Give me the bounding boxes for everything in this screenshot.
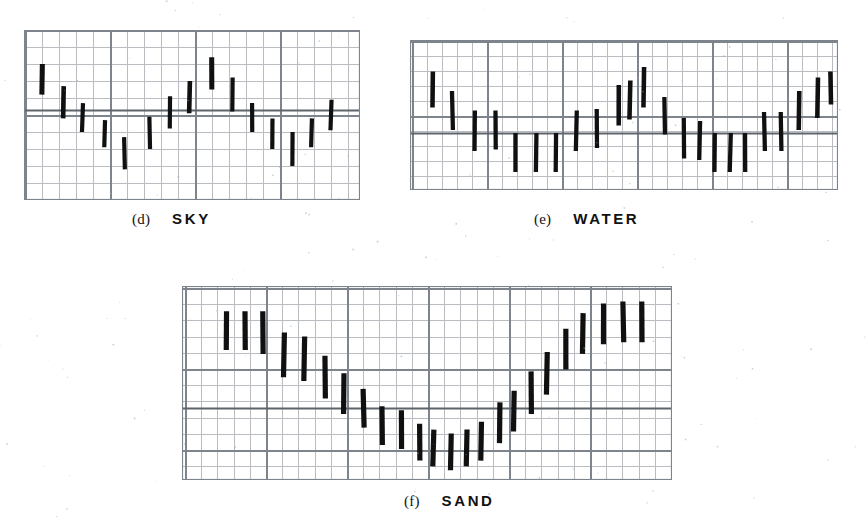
panel-title-sky: SKY (172, 210, 211, 227)
range-bar (330, 100, 331, 131)
range-bar (576, 111, 577, 152)
caption-water: (e)WATER (534, 210, 639, 228)
panel-label-sand: (f) (404, 493, 420, 509)
panel-title-sand: SAND (442, 492, 495, 509)
plot-area-sand (182, 286, 672, 480)
range-bar (830, 72, 831, 105)
range-bar (817, 78, 818, 119)
range-bar (42, 64, 43, 95)
caption-sand: (f)SAND (404, 492, 495, 510)
range-bar (623, 302, 624, 343)
range-bar (629, 81, 630, 120)
range-bar (452, 91, 453, 130)
caption-sky: (d)SKY (132, 210, 211, 228)
range-bar (799, 91, 800, 130)
plot-area-water (410, 40, 838, 190)
range-bar (730, 133, 731, 172)
range-bar (466, 430, 467, 467)
panel-frame (25, 31, 360, 200)
range-bar (582, 313, 583, 354)
panel-sky (24, 30, 360, 200)
range-bar (63, 86, 64, 118)
range-bar (311, 118, 312, 147)
range-bar (284, 333, 285, 378)
range-bar (643, 67, 644, 108)
range-bar (546, 352, 547, 395)
range-bar (104, 120, 105, 147)
range-bar (481, 422, 482, 461)
plot-area-sky (24, 30, 360, 200)
panel-label-sky: (d) (132, 211, 150, 227)
panel-frame (183, 287, 672, 480)
panel-label-water: (e) (534, 211, 551, 227)
range-bar (699, 121, 700, 160)
range-bar (764, 112, 765, 151)
figure-root: (d)SKY (e)WATER (f)SAND (0, 0, 867, 523)
range-bar (149, 117, 150, 149)
range-bar (189, 81, 190, 113)
range-bar (664, 97, 665, 135)
range-bar (82, 103, 83, 132)
range-bar (450, 433, 451, 470)
panel-sand (182, 286, 672, 480)
range-bar (781, 112, 782, 151)
range-bar (304, 336, 305, 381)
panel-water (410, 40, 838, 190)
range-bar (433, 430, 434, 467)
range-bar (363, 389, 364, 428)
range-bar (124, 137, 125, 169)
range-bar (536, 133, 537, 172)
panel-title-water: WATER (573, 210, 639, 227)
range-bar (514, 391, 515, 432)
